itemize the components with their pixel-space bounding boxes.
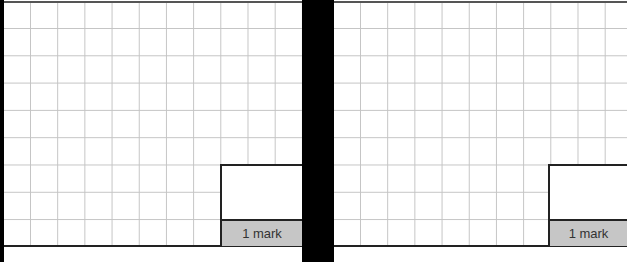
mark-label: 1 mark xyxy=(550,219,627,246)
mark-entry-area[interactable] xyxy=(550,166,627,219)
below-grid-area xyxy=(334,247,627,262)
right-answer-panel: 1 mark xyxy=(334,0,627,262)
mark-label: 1 mark xyxy=(222,219,302,246)
mark-box: 1 mark xyxy=(548,164,627,246)
below-grid-area xyxy=(4,247,302,262)
left-answer-panel: 1 mark xyxy=(4,0,302,262)
mark-entry-area[interactable] xyxy=(222,166,302,219)
mark-box: 1 mark xyxy=(220,164,302,246)
